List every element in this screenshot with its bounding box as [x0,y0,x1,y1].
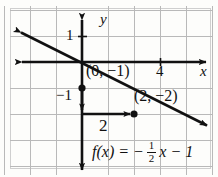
equation-numerator: 1 [147,140,157,152]
equation-suffix: x − 1 [159,144,193,160]
function-line [21,33,207,126]
equation-prefix: f(x) = − [92,144,144,160]
equation-fraction: 1 2 [147,140,157,164]
function-equation: f(x) = − 1 2 x − 1 [92,140,193,164]
graph-figure: y x 1 4 (0, −1) (2, −2) −1 2 f(x) = − 1 … [0,0,218,177]
y-axis-label: y [100,12,107,27]
point-second [130,110,137,117]
label-run: 2 [99,117,108,134]
x-axis-label: x [200,64,207,79]
label-rise: −1 [56,88,72,103]
x-tick-label-4: 4 [156,64,164,79]
label-y-intercept-point: (0, −1) [86,63,130,79]
y-tick-label-1: 1 [66,28,74,43]
point-y-intercept [78,84,85,91]
equation-denominator: 2 [147,152,157,165]
label-second-point: (2, −2) [134,88,178,104]
